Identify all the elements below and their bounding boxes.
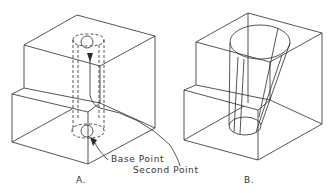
- second-point-label: Second Point: [133, 166, 199, 175]
- base-point-label: Base Point: [111, 155, 164, 164]
- base-point-circle: [81, 125, 93, 137]
- caption-b: B.: [244, 176, 254, 185]
- block-b: [184, 13, 322, 160]
- arrow-head-up: [87, 53, 93, 62]
- block-a: [12, 15, 180, 166]
- cone-bottom-ellipse: [229, 117, 261, 135]
- caption-a: A.: [76, 176, 86, 185]
- cone-top-ellipse: [230, 25, 290, 59]
